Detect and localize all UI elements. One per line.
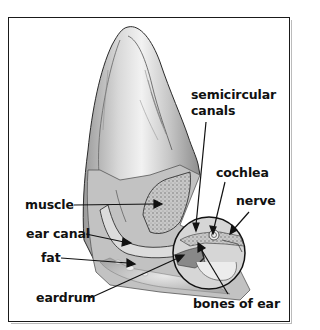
label-fat: fat xyxy=(41,250,61,265)
label-cochlea: cochlea xyxy=(216,165,269,180)
label-semicircular-canals-line1: semicircular xyxy=(191,87,276,102)
label-bones-of-ear: bones of ear xyxy=(193,296,280,311)
label-ear-canal: ear canal xyxy=(26,226,90,241)
label-eardrum: eardrum xyxy=(36,290,95,305)
label-muscle: muscle xyxy=(25,197,74,212)
label-semicircular-canals-line2: canals xyxy=(191,103,235,118)
label-nerve: nerve xyxy=(236,193,276,208)
